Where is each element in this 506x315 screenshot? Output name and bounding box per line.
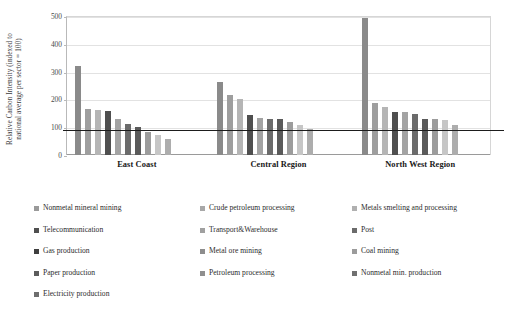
bar	[442, 120, 448, 155]
legend-swatch-icon	[352, 249, 357, 254]
bar	[402, 112, 408, 155]
legend-item[interactable]: Crude petroleum processing	[200, 198, 348, 220]
y-axis-tick-label: 100	[51, 124, 62, 131]
bar-group	[346, 17, 490, 155]
legend-label: Telecommunication	[43, 226, 103, 235]
bar	[85, 109, 91, 155]
legend-column-2: Crude petroleum processingTransport&Ware…	[200, 198, 348, 284]
legend-item[interactable]: Metals smelting and processing	[352, 198, 506, 220]
legend-label: Paper production	[43, 269, 95, 278]
legend-item[interactable]: Nonmetal mineral mining	[34, 198, 194, 220]
y-axis-tick-label: 500	[51, 13, 62, 20]
bar	[115, 119, 121, 155]
bar	[95, 110, 101, 155]
y-axis-tick-label: 0	[58, 152, 62, 159]
chart-legend: Nonmetal mineral miningTelecommunication…	[34, 198, 502, 310]
y-axis-tick-label: 200	[51, 97, 62, 104]
x-axis-group-label: North West Region	[349, 160, 491, 176]
legend-swatch-icon	[34, 249, 39, 254]
legend-label: Gas production	[43, 247, 90, 256]
bar	[392, 112, 398, 155]
bar	[125, 124, 131, 155]
bar	[105, 111, 111, 155]
legend-label: Electricity production	[43, 290, 109, 299]
gridline	[67, 45, 490, 46]
legend-label: Crude petroleum processing	[209, 204, 295, 213]
y-axis-tick-mark	[64, 100, 67, 101]
bar	[277, 119, 283, 155]
y-axis-tick-mark	[64, 17, 67, 18]
gridline	[67, 17, 490, 18]
legend-swatch-icon	[352, 206, 357, 211]
legend-swatch-icon	[34, 271, 39, 276]
reference-line	[63, 130, 504, 131]
bar	[227, 95, 233, 155]
legend-item[interactable]: Transport&Warehouse	[200, 220, 348, 242]
x-axis-group-label: Central Region	[208, 160, 350, 176]
x-axis-group-labels: East CoastCentral RegionNorth West Regio…	[66, 160, 491, 176]
bar	[307, 129, 313, 155]
bar	[362, 18, 368, 155]
x-axis-group-label: East Coast	[66, 160, 208, 176]
legend-label: Metal ore mining	[209, 247, 262, 256]
legend-item[interactable]: Telecommunication	[34, 220, 194, 242]
legend-label: Petroleum processing	[209, 269, 275, 278]
legend-item[interactable]: Paper production	[34, 263, 194, 285]
bar	[422, 119, 428, 155]
legend-swatch-icon	[200, 228, 205, 233]
gridline	[67, 100, 490, 101]
bar	[257, 118, 263, 155]
chart-plot-region: Relative Carbon Intensity (indexed to na…	[0, 0, 506, 196]
legend-item[interactable]: Nonmetal min. production	[352, 263, 506, 285]
y-axis-tick-mark	[64, 128, 67, 129]
bar	[155, 135, 161, 155]
bar	[432, 119, 438, 155]
legend-swatch-icon	[352, 271, 357, 276]
bar	[287, 122, 293, 155]
legend-swatch-icon	[34, 228, 39, 233]
legend-column-1: Nonmetal mineral miningTelecommunication…	[34, 198, 194, 306]
bar-group	[203, 17, 345, 155]
y-axis-tick-mark	[64, 156, 67, 157]
legend-swatch-icon	[352, 228, 357, 233]
legend-item[interactable]: Metal ore mining	[200, 241, 348, 263]
bar	[75, 66, 81, 155]
bar	[217, 82, 223, 155]
y-axis-title-line2: national average per sector = 100)	[15, 14, 24, 164]
y-axis-title: Relative Carbon Intensity (indexed to na…	[6, 14, 24, 164]
bar	[247, 115, 253, 155]
legend-label: Nonmetal min. production	[361, 269, 441, 278]
bar	[135, 127, 141, 155]
legend-item[interactable]: Petroleum processing	[200, 263, 348, 285]
bar	[372, 103, 378, 155]
bar-groups	[67, 17, 490, 155]
bar	[237, 99, 243, 155]
legend-item[interactable]: Coal mining	[352, 241, 506, 263]
legend-label: Post	[361, 226, 374, 235]
chart-figure: Relative Carbon Intensity (indexed to na…	[0, 0, 506, 315]
bar	[145, 132, 151, 155]
legend-label: Nonmetal mineral mining	[43, 204, 121, 213]
y-axis-tick-mark	[64, 73, 67, 74]
legend-swatch-icon	[200, 249, 205, 254]
legend-item[interactable]: Gas production	[34, 241, 194, 263]
plot-area: 0100200300400500	[66, 16, 491, 155]
bar-group	[67, 17, 203, 155]
legend-swatch-icon	[34, 292, 39, 297]
y-axis-tick-label: 400	[51, 41, 62, 48]
bar	[165, 139, 171, 155]
legend-label: Transport&Warehouse	[209, 226, 278, 235]
y-axis-tick-label: 300	[51, 69, 62, 76]
legend-column-3: Metals smelting and processingPostCoal m…	[352, 198, 506, 284]
legend-label: Coal mining	[361, 247, 399, 256]
legend-item[interactable]: Electricity production	[34, 284, 194, 306]
y-axis-tick-mark	[64, 45, 67, 46]
legend-item[interactable]: Post	[352, 220, 506, 242]
y-axis-title-line1: Relative Carbon Intensity (indexed to	[6, 14, 15, 164]
gridline	[67, 73, 490, 74]
legend-swatch-icon	[200, 206, 205, 211]
legend-swatch-icon	[200, 271, 205, 276]
bar	[267, 119, 273, 155]
legend-label: Metals smelting and processing	[361, 204, 457, 213]
bar	[412, 114, 418, 155]
